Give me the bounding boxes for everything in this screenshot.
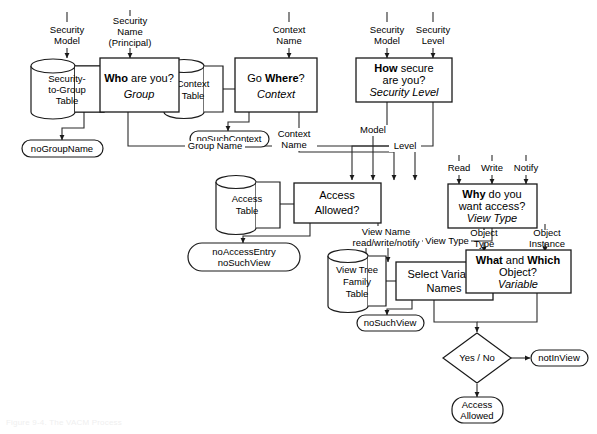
- table-view-tree-family-line1: View Tree: [336, 264, 378, 275]
- table-access-line2: Table: [236, 205, 259, 216]
- process-how-line3: Security Level: [369, 86, 439, 98]
- table-access-line1: Access: [232, 193, 263, 204]
- table-context-line1: Context: [177, 78, 210, 89]
- input-security-name-line3: (Principal): [109, 37, 152, 48]
- process-what-which-line1: What and Which: [476, 254, 561, 266]
- input-write-label: Write: [481, 162, 503, 173]
- diagram-page: Security- to-Group Table Context Table A…: [0, 0, 597, 434]
- edge-label-context-name-line1: Context: [278, 128, 311, 139]
- table-view-tree-family: View Tree Family Table: [328, 250, 386, 313]
- edge-label-level: Level: [394, 140, 417, 151]
- table-security-to-group-line3: Table: [56, 95, 79, 106]
- process-what-which-line3: Variable: [498, 278, 538, 290]
- edge-label-view-type: View Type: [425, 235, 468, 246]
- error-no-group-name-label: noGroupName: [31, 143, 93, 154]
- error-not-in-view-label: notInView: [538, 352, 580, 363]
- input-object-instance-line2: Instance: [529, 238, 565, 249]
- error-no-such-view-label: noSuchView: [364, 317, 417, 328]
- process-who-line2: Group: [124, 88, 155, 100]
- process-access-allowed-line1: Access: [319, 189, 355, 201]
- input-security-model-2-line1: Security: [370, 24, 405, 35]
- process-go-where[interactable]: Go Where? Context: [235, 58, 317, 112]
- process-why-line1: Why do you: [462, 188, 521, 200]
- process-why-want-access[interactable]: Why do you want access? View Type: [448, 184, 537, 228]
- process-how-line2: are you?: [383, 74, 426, 86]
- input-context-name-line1: Context: [273, 24, 306, 35]
- edge-select-vars-to-nosuchview: [387, 300, 412, 315]
- input-object-instance-line1: Object: [533, 227, 561, 238]
- input-object-type-line1: Object: [470, 227, 498, 238]
- result-access-allowed-line2: Allowed: [460, 410, 493, 421]
- error-no-such-view: noSuchView: [357, 315, 424, 331]
- edge-label-group-name: Group Name: [188, 140, 242, 151]
- process-access-allowed-line2: Allowed?: [315, 204, 360, 216]
- error-not-in-view: notInView: [531, 350, 588, 366]
- process-why-line3: View Type: [467, 212, 517, 224]
- result-access-allowed: Access Allowed: [452, 397, 503, 423]
- input-security-model-1-line1: Security: [50, 24, 85, 35]
- error-no-access-entry-line2: noSuchView: [218, 257, 271, 268]
- process-who-line1: Who are you?: [104, 72, 174, 84]
- decision-yes-no-label: Yes / No: [459, 352, 495, 363]
- table-access: Access Table: [216, 176, 280, 235]
- result-access-allowed-line1: Access: [462, 399, 493, 410]
- input-read-label: Read: [448, 162, 471, 173]
- input-security-model-1-line2: Model: [54, 35, 80, 46]
- table-context-line2: Table: [182, 90, 205, 101]
- edge-label-view-name-line2: read/write/notify: [352, 237, 419, 248]
- process-access-allowed[interactable]: Access Allowed?: [294, 183, 381, 223]
- input-security-level-line1: Security: [416, 24, 451, 35]
- process-what-and-which-object[interactable]: What and Which Object? Variable: [466, 250, 571, 293]
- edge-label-model: Model: [360, 124, 386, 135]
- table-security-to-group: Security- to-Group Table: [31, 59, 104, 119]
- edge-select-vars-to-decision: [434, 300, 477, 332]
- process-what-which-line2: Object?: [499, 266, 537, 278]
- error-no-access-entry: noAccessEntry noSuchView: [188, 243, 300, 271]
- input-security-name-line2: Name: [117, 26, 142, 37]
- figure-caption: Figure 9-4. The VACM Process: [6, 418, 122, 427]
- process-how-secure[interactable]: How secure are you? Security Level: [356, 58, 452, 102]
- table-view-tree-family-line3: Table: [346, 288, 369, 299]
- process-why-line2: want access?: [458, 200, 526, 212]
- table-view-tree-family-line2: Family: [343, 276, 371, 287]
- vacm-flow-diagram: Security- to-Group Table Context Table A…: [0, 0, 597, 434]
- error-no-group-name: noGroupName: [22, 140, 103, 157]
- edge-label-context-name-line2: Name: [281, 139, 306, 150]
- input-context-name-line2: Name: [276, 35, 301, 46]
- process-how-line1: How secure: [374, 62, 433, 74]
- table-security-to-group-line2: to-Group: [48, 84, 86, 95]
- edge-where-to-nosuchcontext: [228, 112, 249, 131]
- process-who-are-you[interactable]: Who are you? Group: [100, 58, 179, 112]
- input-security-name-line1: Security: [113, 15, 148, 26]
- edge-label-view-name-line1: View Name: [362, 226, 410, 237]
- error-no-access-entry-line1: noAccessEntry: [212, 246, 276, 257]
- input-notify-label: Notify: [514, 162, 539, 173]
- input-security-model-2-line2: Model: [374, 35, 400, 46]
- decision-yes-no[interactable]: Yes / No: [443, 333, 511, 383]
- input-object-type-line2: Type: [474, 238, 495, 249]
- process-where-line2: Context: [257, 88, 296, 100]
- input-security-level-line2: Level: [422, 35, 445, 46]
- process-where-line1: Go Where?: [247, 72, 304, 84]
- table-security-to-group-line1: Security-: [48, 73, 85, 84]
- process-select-vars-line2: Names: [427, 282, 462, 294]
- edge-how-model-to-access-allowed: [373, 102, 387, 180]
